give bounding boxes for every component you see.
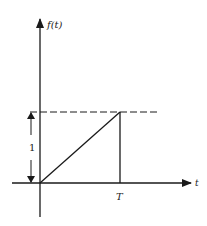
ramp-line (40, 112, 120, 183)
x-axis-label: t (195, 178, 199, 188)
amplitude-label: 1 (29, 142, 35, 153)
y-axis-label: f(t) (46, 19, 63, 30)
x-tick-label-T: T (116, 191, 124, 202)
ramp-function-diagram: f(t) t T 1 (0, 0, 207, 226)
